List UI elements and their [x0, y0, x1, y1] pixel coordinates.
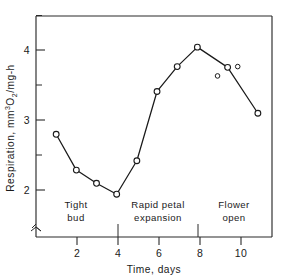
- phase-rapid-petal-expansion-line2: expansion: [134, 212, 182, 223]
- x-tick-label-8: 8: [197, 247, 203, 259]
- y-axis-title-lead: Respiration, mm: [5, 110, 16, 192]
- data-point: [154, 89, 160, 95]
- y-tick-label-2: 2: [24, 184, 30, 196]
- svg-text:Respiration, mm3O2/mg-h: Respiration, mm3O2/mg-h: [4, 64, 18, 191]
- x-tick-label-2: 2: [74, 247, 80, 259]
- x-tick-label-6: 6: [156, 247, 162, 259]
- phase-tight-bud-line1: Tight: [64, 199, 87, 210]
- x-tick-label-4: 4: [115, 247, 121, 259]
- data-point: [53, 131, 59, 137]
- data-point-unconnected: [215, 74, 220, 79]
- data-point: [94, 180, 100, 186]
- y-axis-title: Respiration, mm3O2/mg-h: [4, 64, 18, 191]
- data-point: [225, 64, 231, 70]
- phase-rapid-petal-expansion-line1: Rapid petal: [131, 199, 185, 210]
- data-point-unconnected: [235, 64, 240, 69]
- x-axis-title: Time, days: [127, 264, 181, 275]
- y-tick-label-3: 3: [24, 114, 30, 126]
- phase-tight-bud-line2: bud: [67, 212, 84, 223]
- data-point: [174, 64, 180, 70]
- y-axis-title-tail: /mg-h: [5, 64, 16, 93]
- respiration-time-chart: 4 3 2 2 4 6 8 10 Tight bud Rapid petal e…: [0, 0, 283, 277]
- series-markers-respiration: [53, 44, 261, 197]
- data-point: [114, 191, 120, 197]
- y-axis-title-mid: O: [5, 97, 16, 105]
- x-tick-label-10: 10: [235, 247, 247, 259]
- data-point: [194, 44, 200, 50]
- data-point: [73, 167, 79, 173]
- data-point: [255, 110, 261, 116]
- data-point: [134, 158, 140, 164]
- phase-flower-open-line1: Flower: [218, 199, 250, 210]
- chart-canvas: 4 3 2 2 4 6 8 10 Tight bud Rapid petal e…: [0, 0, 283, 277]
- phase-flower-open-line2: open: [222, 212, 245, 223]
- y-tick-label-4: 4: [24, 44, 30, 56]
